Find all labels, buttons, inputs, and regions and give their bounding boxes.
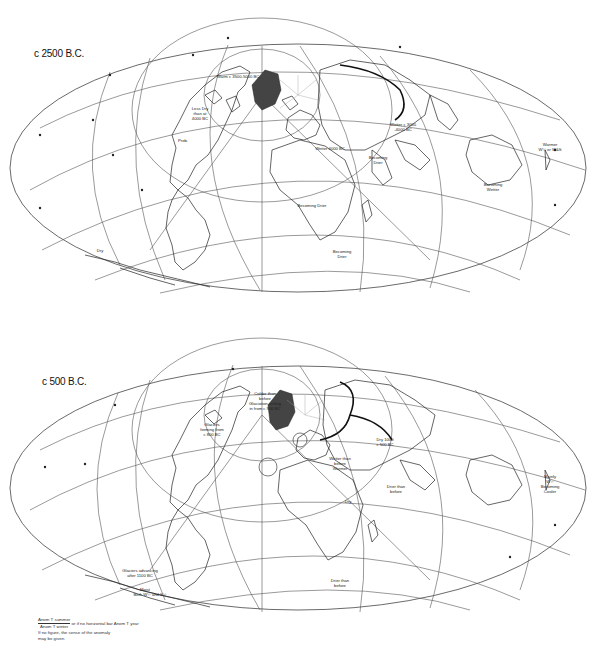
map-panel-2500bc: c 2500 B.C. (0, 0, 596, 320)
annotation: Dry (345, 499, 352, 504)
annotation: Wetter 4000 BC (315, 146, 345, 151)
annotation: Cooler (544, 489, 557, 494)
map-panel-500bc: c 500 B.C. (0, 320, 596, 658)
annotation: W½ or W&S (538, 147, 561, 152)
annotation: Dry (97, 248, 104, 253)
legend-line-3: may be given. (38, 636, 198, 642)
annotation: in from c 900 BC (249, 406, 280, 411)
annotation: after 1100 BC (127, 573, 153, 578)
annotation: Prob. (178, 138, 188, 143)
annotation: before (334, 583, 347, 588)
annotation: 4000 BC (192, 116, 208, 121)
annotation: c 500 BC (376, 442, 393, 447)
annotation: Drier (373, 160, 383, 165)
legend-fraction: Anom T summer Anom T winter (38, 617, 70, 630)
annotation: Drier (337, 254, 347, 259)
annotation: Wetter (487, 187, 500, 192)
annotation: Warm c 3500-5000 BC (217, 74, 259, 79)
annotation: Both W½ and S½ (134, 592, 167, 597)
annotation: c 800 BC (203, 432, 220, 437)
annotation: Warmer (333, 466, 348, 471)
legend: Anom T summer Anom T winter or if no hor… (38, 617, 198, 642)
annotation: Becoming Drier (298, 203, 327, 208)
legend-line-1: Anom T summer Anom T winter or if no hor… (38, 617, 198, 630)
world-map: Warm c 3500-5000 BC Less Dry than at 400… (0, 0, 596, 320)
world-map: Colder than before Glaciation setting in… (0, 320, 596, 658)
annotation: -4000 BC (394, 127, 412, 132)
annotation: before (390, 489, 403, 494)
